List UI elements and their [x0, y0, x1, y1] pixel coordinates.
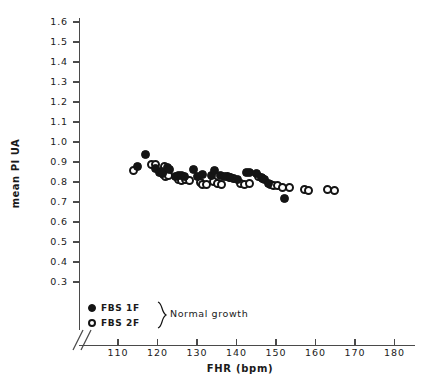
- data-point-fbs-2f: [147, 160, 156, 169]
- legend: FBS 1F FBS 2F Normal growth: [88, 300, 140, 330]
- filled-circle-icon: [88, 304, 96, 312]
- y-tick: [73, 41, 79, 42]
- axis-break-icon: [71, 328, 97, 352]
- data-point-fbs-2f: [159, 170, 168, 179]
- data-point-fbs-1f: [158, 169, 167, 178]
- data-point-fbs-2f: [174, 175, 183, 184]
- y-tick-label: 1.2: [22, 97, 68, 107]
- y-tick: [73, 141, 79, 142]
- y-tick-label: 0.6: [22, 217, 68, 227]
- y-tick-label: 1.4: [22, 57, 68, 67]
- data-point-fbs-2f: [266, 180, 275, 189]
- data-point-fbs-2f: [202, 180, 211, 189]
- y-tick-label: 0.8: [22, 177, 68, 187]
- data-point-fbs-2f: [229, 174, 238, 183]
- data-point-fbs-2f: [254, 172, 263, 181]
- legend-label-fbs-1f: FBS 1F: [101, 303, 140, 313]
- data-point-fbs-2f: [269, 181, 278, 190]
- data-point-fbs-2f: [129, 166, 138, 175]
- data-point-fbs-1f: [207, 171, 216, 180]
- data-point-fbs-2f: [258, 174, 267, 183]
- data-point-fbs-2f: [196, 178, 205, 187]
- data-point-fbs-2f: [185, 176, 194, 185]
- data-point-fbs-2f: [217, 180, 226, 189]
- data-point-fbs-1f: [220, 172, 229, 181]
- data-point-fbs-2f: [273, 181, 282, 190]
- data-point-fbs-2f: [160, 162, 169, 171]
- legend-row-fbs-2f: FBS 2F: [88, 315, 140, 330]
- x-tick: [196, 339, 197, 345]
- data-point-fbs-1f: [157, 167, 166, 176]
- x-tick-label: 180: [375, 348, 415, 358]
- y-tick-label: 1.3: [22, 77, 68, 87]
- data-point-fbs-2f: [164, 171, 173, 180]
- x-tick: [275, 339, 276, 345]
- x-tick: [394, 339, 395, 345]
- x-tick: [117, 339, 118, 345]
- y-tick: [73, 241, 79, 242]
- y-tick: [73, 161, 79, 162]
- data-point-fbs-1f: [245, 168, 254, 177]
- data-point-fbs-2f: [225, 173, 234, 182]
- data-point-fbs-2f: [177, 176, 186, 185]
- data-point-fbs-1f: [171, 172, 180, 181]
- y-axis-title: mean PI UA: [10, 129, 21, 219]
- y-tick: [73, 101, 79, 102]
- y-tick: [73, 281, 79, 282]
- x-tick-label: 160: [296, 348, 336, 358]
- data-point-fbs-1f: [155, 168, 164, 177]
- data-point-fbs-1f: [174, 171, 183, 180]
- y-tick-label: 0.7: [22, 197, 68, 207]
- y-tick-label: 0.3: [22, 277, 68, 287]
- scatter-plot-figure: 0.30.40.50.60.70.80.91.01.11.21.31.41.51…: [0, 0, 442, 382]
- data-point-fbs-1f: [189, 165, 198, 174]
- y-tick-label: 0.9: [22, 157, 68, 167]
- legend-group-label: Normal growth: [170, 308, 248, 319]
- data-point-fbs-1f: [252, 169, 261, 178]
- data-point-fbs-2f: [323, 185, 332, 194]
- data-point-fbs-1f: [151, 164, 160, 173]
- data-point-fbs-1f: [210, 166, 219, 175]
- data-point-fbs-1f: [163, 163, 172, 172]
- data-point-fbs-1f: [257, 173, 266, 182]
- x-tick-label: 130: [177, 348, 217, 358]
- y-tick-label: 1.6: [22, 17, 68, 27]
- data-point-fbs-2f: [151, 160, 160, 169]
- data-point-fbs-1f: [198, 170, 207, 179]
- y-tick: [73, 61, 79, 62]
- data-point-fbs-1f: [242, 168, 251, 177]
- y-tick-label: 1.1: [22, 117, 68, 127]
- data-point-fbs-1f: [180, 172, 189, 181]
- y-tick: [73, 81, 79, 82]
- data-point-fbs-1f: [216, 171, 225, 180]
- data-point-fbs-2f: [330, 186, 339, 195]
- y-tick: [73, 261, 79, 262]
- data-point-fbs-2f: [240, 180, 249, 189]
- data-point-fbs-2f: [198, 180, 207, 189]
- data-point-fbs-1f: [133, 162, 142, 171]
- data-point-fbs-2f: [181, 175, 190, 184]
- data-point-fbs-2f: [285, 183, 294, 192]
- data-point-fbs-1f: [226, 173, 235, 182]
- data-point-fbs-1f: [264, 179, 273, 188]
- data-point-fbs-1f: [165, 165, 174, 174]
- data-point-fbs-2f: [245, 179, 254, 188]
- data-point-fbs-2f: [223, 172, 232, 181]
- x-tick-label: 170: [335, 348, 375, 358]
- x-tick: [236, 339, 237, 345]
- y-tick-label: 0.4: [22, 257, 68, 267]
- data-point-fbs-2f: [209, 177, 218, 186]
- open-circle-icon: [88, 319, 96, 327]
- data-point-fbs-1f: [280, 194, 289, 203]
- y-tick: [73, 121, 79, 122]
- x-tick-label: 150: [256, 348, 296, 358]
- x-tick: [315, 339, 316, 345]
- y-tick-label: 1.0: [22, 137, 68, 147]
- data-point-fbs-2f: [161, 172, 170, 181]
- x-tick: [157, 339, 158, 345]
- y-tick: [73, 221, 79, 222]
- y-tick: [73, 181, 79, 182]
- x-axis-title: FHR (bpm): [150, 363, 330, 374]
- legend-label-fbs-2f: FBS 2F: [101, 318, 140, 328]
- legend-row-fbs-1f: FBS 1F: [88, 300, 140, 315]
